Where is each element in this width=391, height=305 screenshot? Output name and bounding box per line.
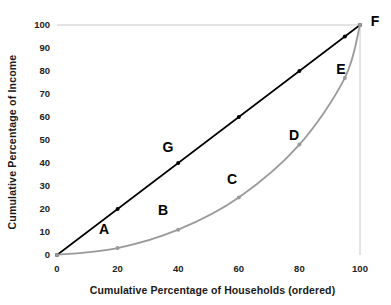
x-axis-title: Cumulative Percentage of Households (ord… (40, 284, 385, 296)
x-tick-label: 20 (98, 263, 138, 274)
point-label-b: B (153, 203, 173, 217)
lorenz-curve-chart: 0102030405060708090100 020406080100 A B … (0, 0, 391, 305)
y-axis-title: Cumulative Percentage of Income (6, 12, 24, 272)
x-tick-label: 80 (279, 263, 319, 274)
point-label-d: D (284, 128, 304, 142)
point-label-g: G (158, 140, 178, 154)
x-axis-ticks: 020406080100 (0, 0, 391, 305)
x-tick-label: 60 (219, 263, 259, 274)
point-label-c: C (222, 172, 242, 186)
x-tick-label: 0 (37, 263, 77, 274)
x-tick-label: 40 (158, 263, 198, 274)
x-tick-label: 100 (340, 263, 380, 274)
point-label-a: A (94, 222, 114, 236)
point-label-e: E (331, 62, 351, 76)
point-label-f: F (365, 14, 385, 28)
